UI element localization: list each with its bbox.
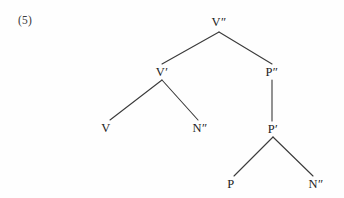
- tree-node-nn2: N″: [309, 178, 324, 191]
- tree-node-pbar: P′: [268, 123, 278, 136]
- tree-node-vbar: V′: [156, 66, 168, 79]
- tree-edge-root-to-pp: [219, 32, 272, 64]
- tree-edge-pbar-to-p: [234, 137, 273, 176]
- tree-node-p: P: [227, 178, 234, 191]
- syntax-tree-figure: (5) V″V′P″VN″P′PN″: [0, 0, 344, 198]
- tree-node-v: V: [101, 122, 110, 135]
- tree-edge-root-to-vbar: [162, 32, 219, 64]
- tree-edge-vbar-to-nn1: [162, 80, 198, 120]
- tree-node-root: V″: [212, 16, 227, 29]
- tree-node-nn1: N″: [193, 122, 208, 135]
- edge-group: [110, 32, 313, 176]
- tree-edge-vbar-to-v: [110, 80, 162, 120]
- tree-node-pp: P″: [266, 66, 279, 79]
- tree-edge-pbar-to-nn2: [273, 137, 313, 176]
- tree-edges-canvas: [0, 0, 344, 198]
